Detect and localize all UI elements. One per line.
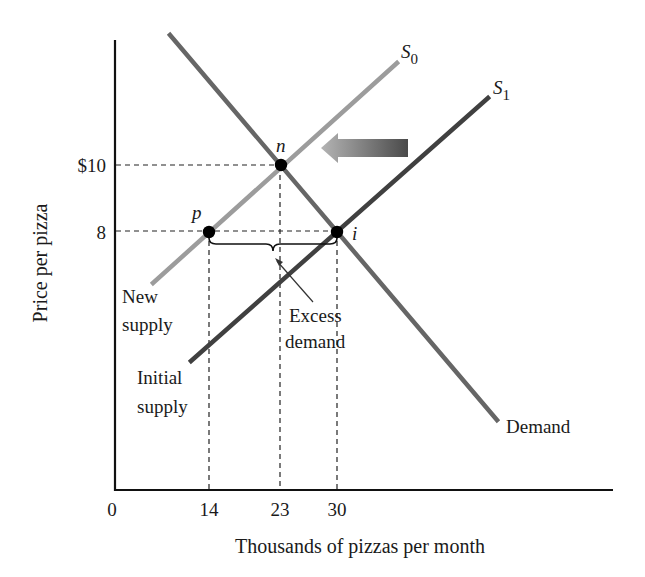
excess-demand-label-line2: demand: [285, 331, 346, 352]
pointer-arrowhead-icon: [275, 258, 283, 266]
x-tick-30: 30: [328, 499, 347, 520]
x-tick-14: 14: [200, 499, 220, 520]
point-n: [275, 159, 287, 171]
s1-label: S1: [493, 77, 510, 103]
supply-demand-chart: n p i S0 S1 Demand New supply Initial su…: [0, 0, 645, 577]
point-p: [203, 226, 215, 238]
new-supply-curve-s0: [153, 63, 397, 283]
point-i-label: i: [352, 223, 357, 244]
initial-supply-label-line1: Initial: [137, 367, 182, 388]
y-axis-title: Price per pizza: [29, 203, 52, 322]
s0-label: S0: [401, 41, 418, 67]
y-tick-8: 8: [97, 222, 107, 243]
y-tick-10: $10: [78, 155, 107, 176]
point-n-label: n: [276, 135, 286, 156]
point-i: [331, 226, 343, 238]
initial-supply-label-line2: supply: [137, 396, 188, 417]
excess-demand-label-line1: Excess: [289, 305, 342, 326]
point-p-label: p: [190, 202, 202, 223]
new-supply-label-line2: supply: [122, 314, 173, 335]
demand-label: Demand: [506, 416, 571, 437]
x-tick-0: 0: [107, 499, 117, 520]
shift-left-arrow-icon: [321, 133, 408, 163]
x-axis-title: Thousands of pizzas per month: [235, 535, 485, 558]
x-tick-23: 23: [271, 499, 290, 520]
new-supply-label-line1: New: [122, 286, 158, 307]
